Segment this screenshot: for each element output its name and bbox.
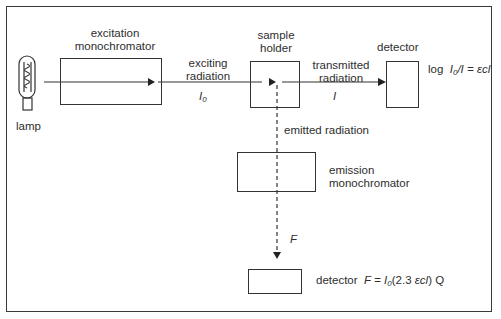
excitation-label-line2: monochromator bbox=[70, 40, 160, 53]
sample-holder-label: sample holder bbox=[248, 29, 304, 55]
emission-line2: monochromator bbox=[329, 177, 410, 190]
fluorescence-detector-box bbox=[248, 269, 302, 294]
transmission-detector-label: detector bbox=[377, 41, 419, 54]
exciting-radiation-label: exciting radiation bbox=[178, 57, 238, 83]
emitted-symbol: F bbox=[290, 233, 297, 246]
transmitted-radiation-label: transmitted radiation bbox=[306, 59, 376, 85]
emission-line1: emission bbox=[329, 164, 410, 177]
arrow-emitted bbox=[273, 252, 281, 259]
excitation-monochromator-box bbox=[60, 58, 162, 105]
transmitted-line1: transmitted bbox=[306, 59, 376, 72]
sample-line1: sample bbox=[248, 29, 304, 42]
arrow-transmitted bbox=[378, 78, 386, 86]
exciting-line1: exciting bbox=[178, 57, 238, 70]
transmitted-symbol: I bbox=[333, 90, 336, 103]
excitation-monochromator-label: excitation monochromator bbox=[70, 27, 160, 53]
sample-line2: holder bbox=[248, 42, 304, 55]
transmitted-line2: radiation bbox=[306, 72, 376, 85]
excitation-label-line1: excitation bbox=[70, 27, 160, 40]
emission-monochromator-label: emission monochromator bbox=[329, 164, 410, 190]
sample-holder-box bbox=[250, 61, 300, 108]
emission-monochromator-box bbox=[237, 152, 316, 192]
lamp-icon bbox=[19, 56, 35, 110]
fluorescence-detector-equation: detector F = I0(2.3 εcl) Q bbox=[316, 274, 444, 290]
exciting-symbol: I0 bbox=[199, 90, 207, 106]
beer-lambert-equation: log I0/I = εcl bbox=[428, 63, 490, 79]
lamp-label: lamp bbox=[16, 120, 41, 133]
emitted-radiation-label: emitted radiation bbox=[284, 124, 369, 137]
transmission-detector-box bbox=[386, 61, 419, 108]
exciting-line2: radiation bbox=[178, 70, 238, 83]
